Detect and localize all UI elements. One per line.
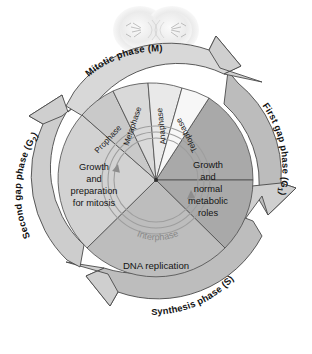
svg-text:for mitosis: for mitosis (73, 198, 116, 208)
svg-text:Growth: Growth (79, 162, 109, 172)
s-wedge-text: DNA replication (123, 260, 189, 271)
cell-cycle-diagram: Mitotic phase (M) First gap phase (G1) S… (0, 0, 312, 354)
svg-text:roles: roles (198, 208, 219, 218)
svg-text:and: and (200, 172, 216, 182)
arrowhead-s-to-g2 (66, 262, 118, 306)
cell-cycle-figure: Mitotic phase (M) First gap phase (G1) S… (0, 0, 312, 354)
svg-text:metabolic: metabolic (188, 196, 228, 206)
figure-caption (0, 344, 312, 354)
svg-text:preparation: preparation (70, 186, 117, 196)
arrowhead-m-to-g1 (209, 36, 262, 82)
svg-text:and: and (86, 174, 102, 184)
cycle-center-point (154, 178, 158, 182)
svg-text:normal: normal (194, 184, 222, 194)
svg-text:Growth: Growth (193, 160, 223, 170)
